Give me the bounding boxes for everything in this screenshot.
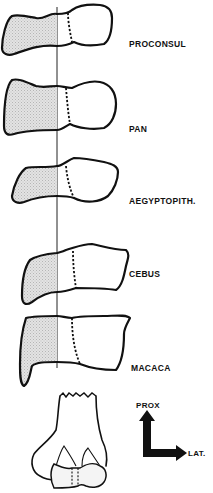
cebus-outline	[22, 244, 128, 304]
pan-outline	[4, 79, 116, 134]
label-proximal: PROX	[136, 401, 160, 410]
label-cebus: CEBUS	[129, 269, 160, 279]
label-aegyptopith: AEGYPTOPITH.	[129, 196, 196, 206]
proximal-arrow-icon	[139, 410, 187, 461]
distal-humerus-comparison-figure	[0, 0, 213, 493]
label-macaca: MACACA	[131, 363, 171, 373]
aegyptopith-outline	[12, 158, 118, 203]
label-proconsul: PROCONSUL	[129, 39, 186, 49]
orientation-indicator	[139, 410, 187, 461]
macaca-outline	[20, 316, 130, 387]
distal-humerus-drawing	[32, 393, 107, 488]
label-lateral: LAT.	[188, 449, 206, 458]
label-pan: PAN	[129, 124, 147, 134]
